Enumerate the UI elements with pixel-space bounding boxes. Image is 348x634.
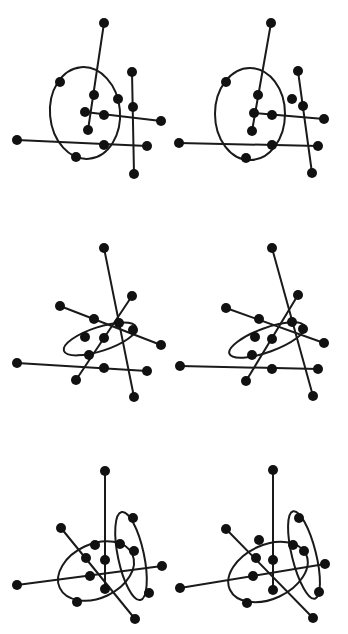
node-dot <box>267 110 277 120</box>
node-dot <box>72 597 82 607</box>
node-dot <box>100 584 110 594</box>
node-dot <box>55 301 65 311</box>
node-dot <box>128 102 138 112</box>
node-dot <box>174 138 184 148</box>
node-dot <box>266 18 276 28</box>
node-dot <box>268 555 278 565</box>
node-dot <box>81 553 91 563</box>
node-dot <box>313 141 323 151</box>
node-dot <box>80 107 90 117</box>
node-dot <box>299 546 309 556</box>
node-dot <box>84 350 94 360</box>
node-dot <box>142 141 152 151</box>
node-dot <box>156 340 166 350</box>
node-dot <box>127 67 137 77</box>
node-dot <box>90 540 100 550</box>
node-dot <box>287 317 297 327</box>
node-dot <box>12 135 22 145</box>
node-dot <box>115 539 125 549</box>
node-dot <box>298 324 308 334</box>
node-dot <box>71 375 81 385</box>
node-dot <box>319 114 329 124</box>
node-dot <box>267 364 277 374</box>
panel-row1-right <box>174 18 329 178</box>
node-dot <box>268 465 278 475</box>
node-dot <box>307 168 317 178</box>
node-dot <box>254 535 264 545</box>
node-dot <box>221 303 231 313</box>
node-dot <box>293 66 303 76</box>
node-dot <box>250 332 260 342</box>
node-dot <box>128 513 138 523</box>
node-dot <box>268 585 278 595</box>
node-dot <box>293 290 303 300</box>
node-dot <box>89 90 99 100</box>
node-dot <box>12 358 22 368</box>
node-dot <box>99 18 109 28</box>
node-dot <box>89 314 99 324</box>
node-dot <box>320 559 330 569</box>
node-dot <box>12 580 22 590</box>
node-dot <box>319 338 329 348</box>
node-dot <box>129 546 139 556</box>
edge-line <box>254 113 324 119</box>
node-dot <box>254 314 264 324</box>
node-dot <box>99 363 109 373</box>
node-dot <box>144 588 154 598</box>
panel-row1-left <box>12 18 166 179</box>
node-dot <box>56 523 66 533</box>
node-dot <box>175 361 185 371</box>
node-dot <box>85 571 95 581</box>
node-dot <box>298 101 308 111</box>
panel-row3-right <box>175 465 330 623</box>
node-dot <box>128 325 138 335</box>
node-dot <box>308 613 318 623</box>
node-dot <box>247 126 257 136</box>
node-dot <box>294 513 304 523</box>
panel-row2-left <box>12 243 166 402</box>
panel-row2-right <box>175 243 329 401</box>
node-dot <box>175 583 185 593</box>
node-dot <box>267 334 277 344</box>
stereo-diagram <box>0 0 348 634</box>
edge-line <box>180 366 318 369</box>
node-dot <box>99 140 109 150</box>
node-dot <box>314 587 324 597</box>
edge-line <box>85 112 161 121</box>
edge-line <box>298 71 312 173</box>
node-dot <box>113 94 123 104</box>
node-dot <box>55 77 65 87</box>
node-dot <box>129 169 139 179</box>
node-dot <box>99 110 109 120</box>
node-dot <box>80 332 90 342</box>
node-dot <box>156 116 166 126</box>
node-dot <box>127 291 137 301</box>
node-dot <box>241 376 251 386</box>
node-dot <box>221 77 231 87</box>
node-dot <box>99 333 109 343</box>
node-dot <box>241 153 251 163</box>
edge-line <box>17 140 147 146</box>
node-dot <box>130 614 140 624</box>
edge-line <box>179 143 318 146</box>
node-dot <box>99 243 109 253</box>
edge-line <box>60 306 161 345</box>
node-dot <box>267 243 277 253</box>
node-dot <box>100 555 110 565</box>
node-dot <box>83 125 93 135</box>
node-dot <box>249 108 259 118</box>
node-dot <box>157 561 167 571</box>
node-dot <box>287 94 297 104</box>
node-dot <box>71 152 81 162</box>
node-dot <box>308 391 318 401</box>
node-dot <box>313 364 323 374</box>
node-dot <box>248 571 258 581</box>
node-dot <box>114 318 124 328</box>
node-dot <box>251 553 261 563</box>
node-dot <box>221 524 231 534</box>
edge-line <box>132 72 134 174</box>
node-dot <box>142 366 152 376</box>
node-dot <box>242 598 252 608</box>
node-dot <box>288 540 298 550</box>
node-dot <box>253 90 263 100</box>
